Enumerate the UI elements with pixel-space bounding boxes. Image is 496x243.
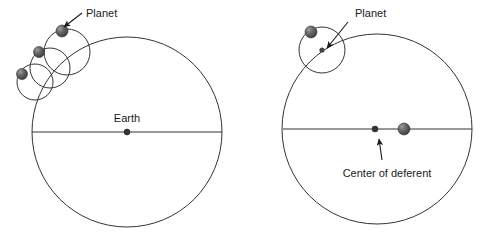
left-planet-sphere-1	[17, 69, 28, 80]
right-planet-label: Planet	[355, 7, 386, 19]
right-earth-sphere	[398, 123, 410, 135]
right-center-of-deferent-dot	[372, 126, 378, 132]
ptolemaic-model-diagram: Planet Earth Planet Center of deferent	[0, 0, 496, 243]
left-panel-group: Planet Earth	[17, 7, 223, 227]
right-panel-group: Planet Center of deferent	[282, 7, 472, 224]
center-of-deferent-arrow	[379, 139, 382, 160]
left-planet-sphere-3	[56, 25, 68, 37]
right-planet-arrow	[327, 22, 348, 48]
left-earth-label: Earth	[114, 112, 140, 124]
left-planet-arrow	[64, 13, 82, 27]
right-epicycle-center-dot	[319, 47, 324, 52]
left-earth-dot	[124, 129, 130, 135]
left-planet-sphere-2	[34, 47, 45, 58]
left-epicycle-3	[44, 29, 90, 75]
right-planet-sphere	[305, 26, 317, 38]
figure-canvas: Planet Earth Planet Center of deferent	[0, 0, 496, 243]
left-planet-label: Planet	[86, 7, 117, 19]
center-of-deferent-label: Center of deferent	[343, 167, 432, 179]
